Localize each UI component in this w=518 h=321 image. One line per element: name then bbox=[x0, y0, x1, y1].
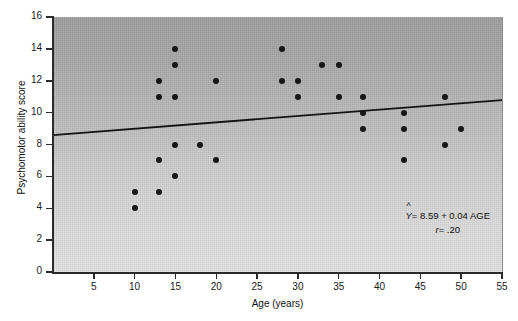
x-tick bbox=[216, 273, 218, 279]
y-hat-symbol: ^ Y bbox=[405, 209, 411, 223]
data-point bbox=[336, 62, 342, 68]
x-axis-title: Age (years) bbox=[53, 298, 502, 309]
y-tick-label: 16 bbox=[20, 10, 42, 21]
data-point bbox=[458, 126, 464, 132]
x-tick bbox=[256, 273, 258, 279]
equation-line: ^ Y = 8.59 + 0.04 AGE bbox=[405, 209, 490, 223]
x-tick-label: 15 bbox=[163, 281, 187, 292]
x-tick bbox=[420, 273, 422, 279]
y-tick bbox=[46, 80, 52, 82]
y-tick bbox=[46, 239, 52, 241]
r-value: = .20 bbox=[439, 224, 460, 235]
y-tick bbox=[46, 16, 52, 18]
regression-equation-annotation: ^ Y = 8.59 + 0.04 AGE r= .20 bbox=[405, 209, 490, 237]
y-letter: Y bbox=[405, 210, 411, 221]
y-tick bbox=[46, 112, 52, 114]
x-tick-label: 50 bbox=[449, 281, 473, 292]
fit-line-segment bbox=[53, 100, 502, 135]
x-tick bbox=[93, 273, 95, 279]
data-point bbox=[360, 94, 366, 100]
correlation-line: r= .20 bbox=[405, 223, 490, 237]
x-tick-label: 55 bbox=[490, 281, 514, 292]
scatter-plot-figure: ^ Y = 8.59 + 0.04 AGE r= .20 02468101214… bbox=[0, 0, 518, 321]
data-point bbox=[360, 110, 366, 116]
x-tick bbox=[134, 273, 136, 279]
y-tick bbox=[46, 208, 52, 210]
x-tick-label: 45 bbox=[408, 281, 432, 292]
x-tick bbox=[460, 273, 462, 279]
data-point bbox=[156, 94, 162, 100]
data-point bbox=[279, 78, 285, 84]
data-point bbox=[401, 126, 407, 132]
x-tick-label: 25 bbox=[245, 281, 269, 292]
x-tick bbox=[175, 273, 177, 279]
data-point bbox=[442, 142, 448, 148]
data-point bbox=[132, 205, 138, 211]
data-point bbox=[279, 46, 285, 52]
x-tick-label: 30 bbox=[286, 281, 310, 292]
y-axis-line bbox=[52, 16, 54, 273]
data-point bbox=[442, 94, 448, 100]
x-tick-label: 35 bbox=[327, 281, 351, 292]
data-point bbox=[156, 78, 162, 84]
x-tick-label: 5 bbox=[82, 281, 106, 292]
x-tick bbox=[297, 273, 299, 279]
data-point bbox=[197, 142, 203, 148]
x-tick bbox=[338, 273, 340, 279]
plot-area: ^ Y = 8.59 + 0.04 AGE r= .20 bbox=[53, 17, 503, 272]
y-axis-title: Psychomotor ability score bbox=[16, 53, 27, 223]
data-point bbox=[401, 110, 407, 116]
y-tick-label: 0 bbox=[20, 265, 42, 276]
y-tick-label: 14 bbox=[20, 42, 42, 53]
data-point bbox=[336, 94, 342, 100]
x-tick-label: 20 bbox=[204, 281, 228, 292]
x-tick-label: 40 bbox=[368, 281, 392, 292]
data-point bbox=[295, 94, 301, 100]
y-tick bbox=[46, 271, 52, 273]
equation-text: = 8.59 + 0.04 AGE bbox=[412, 210, 490, 221]
x-axis-line bbox=[52, 272, 503, 274]
y-tick bbox=[46, 144, 52, 146]
data-point bbox=[295, 78, 301, 84]
x-tick-label: 10 bbox=[123, 281, 147, 292]
data-point bbox=[132, 189, 138, 195]
data-point bbox=[213, 78, 219, 84]
x-tick bbox=[379, 273, 381, 279]
y-tick-label: 2 bbox=[20, 233, 42, 244]
data-point bbox=[360, 126, 366, 132]
hat-accent-icon: ^ bbox=[405, 202, 411, 210]
x-tick bbox=[501, 273, 503, 279]
y-tick bbox=[46, 48, 52, 50]
y-tick bbox=[46, 176, 52, 178]
